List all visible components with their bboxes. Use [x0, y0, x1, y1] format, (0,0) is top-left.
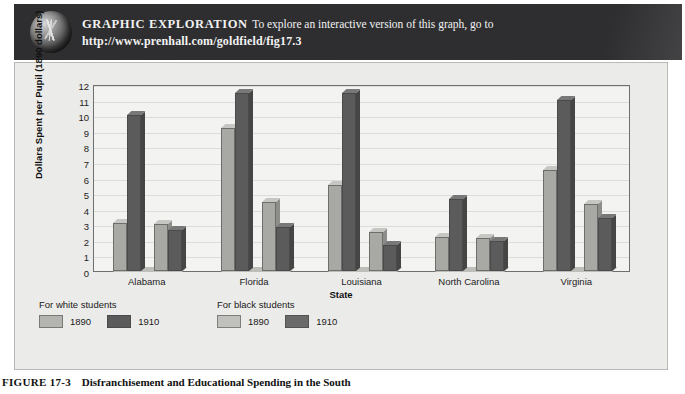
bar-side-face — [504, 238, 508, 271]
x-axis-tick-label: Louisiana — [341, 276, 382, 287]
y-axis-tick-label: 3 — [84, 221, 89, 232]
bar-florida-for-white-students-1910 — [235, 93, 249, 271]
bar-alabama-for-white-students-1910 — [127, 115, 141, 271]
bar-front-face — [476, 238, 490, 271]
legend-item: 1890 — [217, 315, 269, 328]
legend-label: 1910 — [138, 316, 159, 327]
gridline — [94, 117, 629, 118]
y-axis-tick-label: 7 — [84, 158, 89, 169]
bar-north-carolina-for-black-students-1910 — [490, 241, 504, 271]
bar-virginia-for-black-students-1890 — [584, 204, 598, 271]
bar-side-face — [612, 215, 616, 271]
y-axis-tick-label: 4 — [84, 205, 89, 216]
x-axis-tick-label: Alabama — [128, 276, 166, 287]
legend-swatch — [39, 315, 63, 328]
bar-front-face — [127, 115, 141, 271]
bar-front-face — [262, 202, 276, 271]
bar-louisiana-for-black-students-1910 — [383, 245, 397, 271]
chart-panel: Dollars Spent per Pupil (1890 dollars) 1… — [14, 62, 668, 370]
bar-louisiana-for-white-students-1910 — [342, 93, 356, 271]
legend-items: 18901910 — [39, 315, 175, 328]
bar-florida-for-black-students-1890 — [262, 202, 276, 271]
x-axis-tick-label: Virginia — [561, 276, 593, 287]
legend-swatch — [217, 315, 241, 328]
y-axis-tick-label: 6 — [84, 174, 89, 185]
bar-front-face — [168, 230, 182, 271]
graphic-exploration-body: To explore an interactive version of thi… — [252, 18, 493, 30]
figure-caption: FIGURE 17-3 Disfranchisement and Educati… — [2, 376, 562, 388]
legend-item: 1910 — [107, 315, 159, 328]
bar-front-face — [584, 204, 598, 271]
bar-front-face — [113, 223, 127, 271]
chart-legend: For white students18901910For black stud… — [39, 299, 439, 347]
bar-front-face — [543, 170, 557, 271]
legend-label: 1890 — [248, 316, 269, 327]
gridline — [94, 148, 629, 149]
graphic-exploration-url[interactable]: http://www.prenhall.com/goldfield/fig17.… — [82, 34, 642, 49]
bar-front-face — [490, 241, 504, 271]
bar-florida-for-black-students-1910 — [276, 227, 290, 271]
figure-number: FIGURE 17-3 — [2, 376, 71, 388]
bar-virginia-for-white-students-1910 — [557, 100, 571, 271]
legend-label: 1890 — [70, 316, 91, 327]
bar-side-face — [356, 90, 360, 271]
bar-side-face — [290, 224, 294, 271]
bar-front-face — [435, 237, 449, 271]
bar-front-face — [328, 185, 342, 271]
legend-swatch — [107, 315, 131, 328]
gridline — [94, 102, 629, 103]
legend-swatch — [285, 315, 309, 328]
bar-side-face — [397, 241, 401, 271]
bar-front-face — [221, 128, 235, 271]
bar-front-face — [449, 199, 463, 271]
bar-front-face — [369, 232, 383, 271]
gridline — [94, 86, 629, 87]
legend-group: For white students18901910 — [39, 299, 175, 328]
bar-alabama-for-black-students-1890 — [154, 224, 168, 271]
bar-side-face — [249, 90, 253, 271]
bar-north-carolina-for-white-students-1910 — [449, 199, 463, 271]
gridline — [94, 164, 629, 165]
bar-florida-for-white-students-1890 — [221, 128, 235, 271]
legend-group-title: For white students — [39, 299, 175, 310]
plot-area: 1211109876543210 — [93, 85, 630, 272]
bar-virginia-for-black-students-1910 — [598, 218, 612, 271]
figure-page: GRAPHIC EXPLORATION To explore an intera… — [0, 0, 685, 394]
x-axis-tick-label: Florida — [240, 276, 269, 287]
x-axis-tick-label: North Carolina — [438, 276, 499, 287]
legend-group-title: For black students — [217, 299, 353, 310]
y-axis-tick-label: 10 — [78, 112, 89, 123]
bar-alabama-for-white-students-1890 — [113, 223, 127, 271]
figure-caption-text: Disfranchisement and Educational Spendin… — [82, 376, 351, 388]
bar-front-face — [276, 227, 290, 271]
bar-louisiana-for-black-students-1890 — [369, 232, 383, 271]
y-axis-title: Dollars Spent per Pupil (1890 dollars) — [33, 11, 44, 179]
bar-side-face — [571, 96, 575, 271]
bar-front-face — [154, 224, 168, 271]
legend-items: 18901910 — [217, 315, 353, 328]
bar-louisiana-for-white-students-1890 — [328, 185, 342, 271]
graphic-exploration-label: GRAPHIC EXPLORATION — [82, 17, 248, 31]
bar-north-carolina-for-black-students-1890 — [476, 238, 490, 271]
y-axis-tick-label: 8 — [84, 143, 89, 154]
legend-group: For black students18901910 — [217, 299, 353, 328]
banner-text: GRAPHIC EXPLORATION To explore an intera… — [82, 15, 642, 49]
bar-front-face — [342, 93, 356, 271]
y-axis-tick-label: 2 — [84, 236, 89, 247]
bar-front-face — [235, 93, 249, 271]
bar-front-face — [598, 218, 612, 271]
y-axis-tick-label: 5 — [84, 190, 89, 201]
y-axis-tick-label: 1 — [84, 252, 89, 263]
bar-front-face — [383, 245, 397, 271]
bar-front-face — [557, 100, 571, 271]
bar-virginia-for-white-students-1890 — [543, 170, 557, 271]
y-axis-tick-label: 0 — [84, 268, 89, 279]
bar-north-carolina-for-white-students-1890 — [435, 237, 449, 271]
legend-item: 1910 — [285, 315, 337, 328]
legend-item: 1890 — [39, 315, 91, 328]
graphic-exploration-banner: GRAPHIC EXPLORATION To explore an intera… — [14, 4, 682, 60]
y-axis-tick-label: 9 — [84, 127, 89, 138]
y-axis-tick-label: 11 — [79, 96, 89, 107]
bar-alabama-for-black-students-1910 — [168, 230, 182, 271]
bar-side-face — [463, 196, 467, 271]
